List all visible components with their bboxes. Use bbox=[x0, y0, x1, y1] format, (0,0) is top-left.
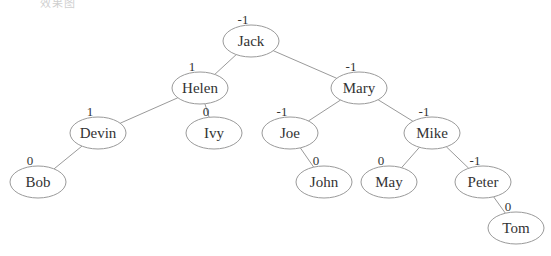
tree-node-mary: Mary-1 bbox=[331, 59, 387, 104]
edge-mary-joe bbox=[308, 100, 340, 121]
tree-node-ivy: Ivy0 bbox=[186, 104, 242, 149]
node-label: Jack bbox=[238, 33, 265, 49]
tree-node-tom: Tom0 bbox=[488, 199, 544, 244]
balance-factor-label: 1 bbox=[189, 59, 196, 74]
balance-factor-label: -1 bbox=[238, 12, 249, 27]
node-label: Bob bbox=[25, 174, 50, 190]
tree-nodes: Jack-1Helen1Mary-1Devin1Ivy0Joe-1Mike-1B… bbox=[10, 12, 544, 244]
balance-factor-label: 0 bbox=[27, 153, 34, 168]
tree-node-mike: Mike-1 bbox=[404, 104, 460, 149]
balance-factor-label: 0 bbox=[505, 199, 512, 214]
edge-joe-john bbox=[300, 148, 313, 167]
edge-devin-bob bbox=[54, 146, 82, 169]
edge-mike-peter bbox=[446, 147, 468, 168]
tree-node-jack: Jack-1 bbox=[223, 12, 279, 57]
balance-factor-label: 0 bbox=[378, 153, 385, 168]
node-label: Helen bbox=[182, 80, 218, 96]
balance-factor-label: 0 bbox=[203, 104, 210, 119]
node-label: Devin bbox=[80, 125, 117, 141]
tree-node-john: John0 bbox=[296, 153, 352, 198]
balance-factor-label: 0 bbox=[313, 153, 320, 168]
balance-factor-label: -1 bbox=[346, 59, 357, 74]
balance-factor-label: -1 bbox=[277, 104, 288, 119]
node-label: Mary bbox=[343, 80, 376, 96]
node-label: Mike bbox=[416, 125, 448, 141]
balance-factor-label: -1 bbox=[419, 104, 430, 119]
balance-factor-label: -1 bbox=[470, 153, 481, 168]
node-label: John bbox=[310, 174, 339, 190]
tree-node-helen: Helen1 bbox=[172, 59, 228, 104]
node-label: May bbox=[375, 174, 403, 190]
node-label: Joe bbox=[280, 125, 300, 141]
node-label: Tom bbox=[502, 220, 530, 236]
edge-helen-devin bbox=[120, 98, 178, 123]
edge-mike-may bbox=[402, 147, 420, 167]
node-label: Peter bbox=[468, 174, 499, 190]
tree-node-devin: Devin1 bbox=[70, 104, 126, 149]
edge-jack-mary bbox=[273, 51, 336, 79]
balance-factor-label: 1 bbox=[87, 104, 94, 119]
edge-mary-mike bbox=[378, 100, 413, 122]
avl-tree-diagram: Jack-1Helen1Mary-1Devin1Ivy0Joe-1Mike-1B… bbox=[0, 0, 551, 256]
edge-peter-tom bbox=[494, 197, 506, 213]
node-label: Ivy bbox=[204, 125, 224, 141]
tree-node-peter: Peter-1 bbox=[455, 153, 511, 198]
edge-jack-helen bbox=[215, 55, 236, 75]
tree-node-bob: Bob0 bbox=[10, 153, 66, 198]
tree-node-joe: Joe-1 bbox=[262, 104, 318, 149]
